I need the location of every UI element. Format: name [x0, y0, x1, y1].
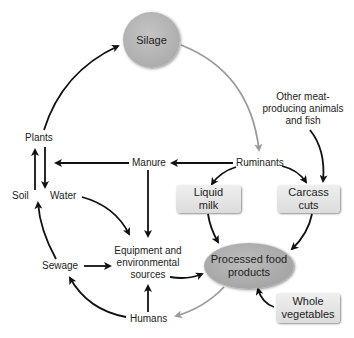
arrow-wholeveg-to-processed: [258, 289, 274, 307]
equipment-line-1: Equipment and: [108, 245, 188, 257]
node-ruminants: Ruminants: [236, 157, 284, 169]
processed-food-line-2: products: [228, 266, 270, 279]
liquid-milk-line-2: milk: [199, 199, 219, 212]
liquid-milk-line-1: Liquid: [194, 186, 223, 199]
node-liquid-milk: Liquid milk: [176, 185, 241, 213]
node-processed-food: Processed food products: [204, 243, 294, 289]
processed-food-line-1: Processed food: [211, 253, 287, 266]
other-meat-line-2: producing animals: [262, 103, 344, 115]
other-meat-line-1: Other meat-: [262, 91, 344, 103]
node-silage: Silage: [123, 12, 180, 68]
carcass-cuts-line-1: Carcass: [288, 186, 328, 199]
whole-vegetables-line-1: Whole: [292, 295, 323, 308]
node-carcass-cuts: Carcass cuts: [277, 185, 340, 213]
arrow-milk-to-processed: [208, 214, 218, 242]
whole-vegetables-line-2: vegetables: [281, 308, 334, 321]
arrow-plants-to-silage: [44, 46, 118, 130]
arrow-sewage-to-soil: [38, 203, 56, 259]
node-sewage: Sewage: [42, 260, 78, 272]
node-humans: Humans: [130, 313, 167, 325]
arrow-silage-to-ruminants: [181, 45, 259, 150]
node-equipment: Equipment and environmental sources: [108, 245, 188, 281]
equipment-line-2: environmental: [108, 257, 188, 269]
arrow-humans-to-sewage: [70, 278, 126, 317]
node-whole-vegetables: Whole vegetables: [276, 293, 340, 323]
arrow-othermeat-to-carcass: [310, 130, 323, 181]
arrow-ruminants-to-carcass: [282, 166, 306, 182]
node-other-meat: Other meat- producing animals and fish: [262, 91, 344, 127]
arrow-processed-to-humans: [176, 287, 224, 316]
arrow-water-to-equipment: [82, 197, 129, 234]
node-water: Water: [50, 190, 76, 202]
other-meat-line-3: and fish: [262, 115, 344, 127]
carcass-cuts-line-2: cuts: [298, 199, 318, 212]
arrow-carcass-to-processed: [292, 214, 312, 249]
equipment-line-3: sources: [108, 269, 188, 281]
arrow-ruminants-to-milk: [212, 167, 236, 184]
silage-label: Silage: [136, 34, 167, 46]
node-plants: Plants: [25, 132, 53, 144]
node-manure: Manure: [132, 157, 166, 169]
node-soil: Soil: [12, 190, 29, 202]
